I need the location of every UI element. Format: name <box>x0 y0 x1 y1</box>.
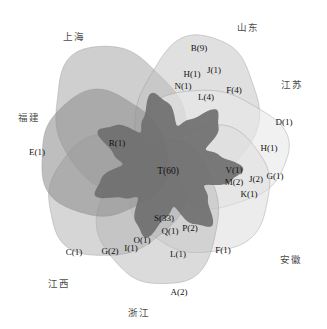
region-label-r-H1: H(1) <box>184 69 201 79</box>
region-label-r-B: B(9) <box>191 43 208 53</box>
region-label-r-F1: F(1) <box>215 245 231 255</box>
region-label-r-R1: R(1) <box>109 138 126 148</box>
set-label-jiangxi: 江西 <box>48 276 69 290</box>
venn-diagram: 上海山东江苏安徽浙江江西福建 T(60)S(33)B(9)L(4)F(4)J(1… <box>0 0 327 329</box>
region-label-r-D1: D(1) <box>276 117 293 127</box>
region-label-r-T: T(60) <box>157 166 179 176</box>
region-label-r-M2: M(2) <box>225 177 244 187</box>
set-label-anhui: 安徽 <box>280 252 301 266</box>
region-label-r-E1: E(1) <box>29 147 45 157</box>
region-label-r-C1: C(1) <box>66 247 83 257</box>
set-label-shandong: 山东 <box>237 20 258 34</box>
region-label-r-L1: L(1) <box>170 249 186 259</box>
region-label-r-S: S(33) <box>154 213 174 223</box>
region-label-r-J1: J(1) <box>207 65 221 75</box>
set-label-shanghai: 上海 <box>63 29 84 43</box>
region-label-r-P2: P(2) <box>182 223 198 233</box>
set-label-zhejiang: 浙江 <box>128 305 149 319</box>
region-label-r-J2: J(2) <box>249 174 263 184</box>
set-label-jiangsu: 江苏 <box>281 77 302 91</box>
region-label-r-V1: V(1) <box>226 165 243 175</box>
region-label-r-Q1: Q(1) <box>162 226 179 236</box>
region-label-r-K1: K(1) <box>241 189 258 199</box>
region-label-r-L4: L(4) <box>198 92 214 102</box>
region-label-r-A2: A(2) <box>171 287 188 297</box>
region-label-r-H1b: H(1) <box>261 143 278 153</box>
region-label-r-I1: I(1) <box>124 243 138 253</box>
region-label-r-G1: G(1) <box>267 171 284 181</box>
region-label-r-F4: F(4) <box>226 85 242 95</box>
region-label-r-G2: G(2) <box>102 246 119 256</box>
region-label-r-N1: N(1) <box>175 81 192 91</box>
set-label-fujian: 福建 <box>18 110 39 124</box>
